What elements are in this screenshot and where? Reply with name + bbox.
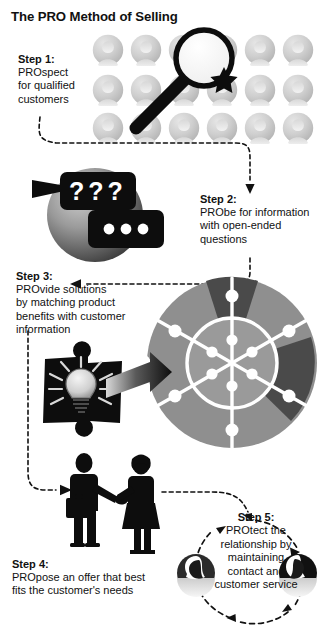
step-3-heading: Step 3: <box>16 270 166 283</box>
step-4-block: Step 4: PROpose an offer that best fits … <box>12 558 192 598</box>
infographic-canvas: The PRO Method of Selling Step 1: PROspe… <box>0 0 320 633</box>
avatar-row-3 <box>93 113 313 146</box>
briefcase-icon <box>66 498 92 518</box>
step-5-heading: Step 5: <box>206 511 306 524</box>
lightbulb-puzzle-piece <box>43 341 172 436</box>
handshake-silhouettes <box>66 453 160 554</box>
step-2-body: PRObe for information with open-ended qu… <box>200 206 318 246</box>
connector-step4-step5 <box>162 492 248 512</box>
step-5-body: PROtect the relationship by maintaining … <box>206 524 306 592</box>
step-3-block: Step 3: PROvide solutions by matching pr… <box>16 270 166 337</box>
step-5-block: Step 5: PROtect the relationship by main… <box>206 511 306 592</box>
question-bubble-text: ??? <box>60 172 136 210</box>
step-1-block: Step 1: PROspect for qualified customers <box>18 53 110 106</box>
jigsaw-circle-graphic <box>147 277 317 448</box>
businessman-silhouette <box>66 453 118 547</box>
step-4-heading: Step 4: <box>12 558 192 571</box>
step-1-heading: Step 1: <box>18 53 110 66</box>
page-title: The PRO Method of Selling <box>11 9 178 24</box>
step-2-block: Step 2: PRObe for information with open-… <box>200 193 318 246</box>
step-2-heading: Step 2: <box>200 193 318 206</box>
step-3-body: PROvide solutions by matching product be… <box>16 283 166 337</box>
step-4-body: PROpose an offer that best fits the cust… <box>12 571 192 598</box>
step-1-body: PROspect for qualified customers <box>18 66 110 106</box>
